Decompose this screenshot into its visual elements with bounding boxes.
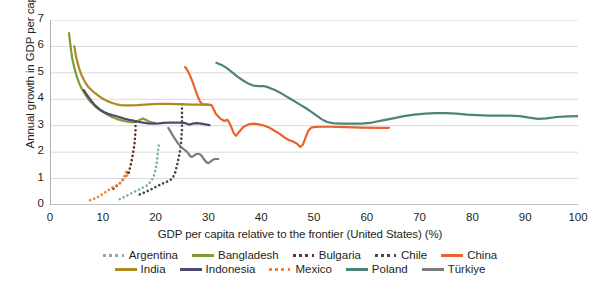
legend-label: Mexico — [295, 263, 331, 275]
legend-item-argentina[interactable]: Argentina — [103, 249, 178, 261]
chart-legend: ArgentinaBangladeshBulgariaChileChina In… — [0, 249, 600, 275]
dotted-line-swatch — [269, 268, 291, 271]
legend-item-india[interactable]: India — [115, 263, 166, 275]
x-tick-label: 20 — [136, 211, 176, 223]
x-tick-label: 90 — [505, 211, 545, 223]
x-tick-label: 100 — [558, 211, 598, 223]
solid-line-swatch — [422, 268, 444, 271]
legend-label: Poland — [372, 263, 408, 275]
legend-item-china[interactable]: China — [441, 249, 497, 261]
x-axis-title: GDP per capita relative to the frontier … — [0, 228, 600, 240]
legend-label: Türkiye — [448, 263, 486, 275]
legend-label: Indonesia — [206, 263, 256, 275]
x-tick-label: 50 — [294, 211, 334, 223]
series-line-india — [74, 46, 208, 105]
dotted-line-swatch — [293, 254, 315, 257]
x-tick-label: 70 — [400, 211, 440, 223]
x-tick-label: 80 — [452, 211, 492, 223]
y-tick-label: 1 — [22, 171, 44, 183]
y-tick-label: 4 — [22, 91, 44, 103]
y-tick-label: 0 — [22, 197, 44, 209]
series-line-türkiye — [168, 128, 218, 163]
data-series-group — [69, 33, 578, 200]
plot-area — [50, 20, 578, 205]
legend-label: China — [467, 249, 497, 261]
y-tick-label: 5 — [22, 65, 44, 77]
y-tick-label: 3 — [22, 118, 44, 130]
gridlines — [50, 20, 578, 179]
legend-row-1: ArgentinaBangladeshBulgariaChileChina — [96, 249, 504, 261]
solid-line-swatch — [192, 254, 214, 257]
x-tick-label: 0 — [30, 211, 70, 223]
plot-svg — [50, 20, 578, 205]
series-line-poland — [216, 63, 578, 124]
x-tick-label: 40 — [241, 211, 281, 223]
legend-item-indonesia[interactable]: Indonesia — [180, 263, 256, 275]
legend-item-türkiye[interactable]: Türkiye — [422, 263, 486, 275]
x-tick-label: 10 — [83, 211, 123, 223]
legend-label: India — [141, 263, 166, 275]
legend-item-poland[interactable]: Poland — [346, 263, 408, 275]
solid-line-swatch — [441, 254, 463, 257]
x-tick-label: 60 — [347, 211, 387, 223]
y-tick-label: 7 — [22, 12, 44, 24]
y-tick-label: 2 — [22, 144, 44, 156]
series-line-china — [185, 67, 389, 147]
legend-label: Bangladesh — [218, 249, 279, 261]
solid-line-swatch — [346, 268, 368, 271]
legend-item-bangladesh[interactable]: Bangladesh — [192, 249, 279, 261]
dotted-line-swatch — [103, 254, 125, 257]
legend-row-2: IndiaIndonesiaMexicoPolandTürkiye — [108, 263, 493, 275]
legend-item-mexico[interactable]: Mexico — [269, 263, 331, 275]
legend-item-chile[interactable]: Chile — [375, 249, 427, 261]
solid-line-swatch — [180, 268, 202, 271]
legend-label: Argentina — [129, 249, 178, 261]
legend-item-bulgaria[interactable]: Bulgaria — [293, 249, 361, 261]
x-tick-label: 30 — [188, 211, 228, 223]
chart-figure: Annual growth in GDP per capita (%) 0123… — [0, 0, 600, 297]
solid-line-swatch — [115, 268, 137, 271]
y-tick-label: 6 — [22, 38, 44, 50]
legend-label: Chile — [401, 249, 427, 261]
series-line-mexico — [90, 172, 128, 201]
series-line-chile — [140, 103, 182, 194]
dotted-line-swatch — [375, 254, 397, 257]
legend-label: Bulgaria — [319, 249, 361, 261]
